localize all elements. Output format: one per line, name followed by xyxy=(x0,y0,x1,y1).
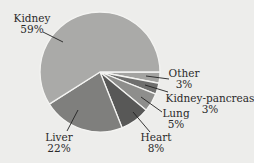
label-other: Other 3% xyxy=(169,68,200,90)
label-other-pct: 3% xyxy=(169,79,200,90)
label-heart: Heart 8% xyxy=(141,132,172,154)
label-lung-pct: 5% xyxy=(162,119,189,130)
pie-slices xyxy=(40,12,160,132)
label-liver: Liver 22% xyxy=(45,132,73,154)
label-liver-pct: 22% xyxy=(45,143,73,154)
label-kidney-pancreas-pct: 3% xyxy=(166,104,254,115)
label-kidney-pancreas: Kidney-pancreas 3% xyxy=(166,93,254,115)
label-heart-pct: 8% xyxy=(141,143,172,154)
label-kidney: Kidney 59% xyxy=(14,13,51,35)
label-kidney-pct: 59% xyxy=(14,24,51,35)
